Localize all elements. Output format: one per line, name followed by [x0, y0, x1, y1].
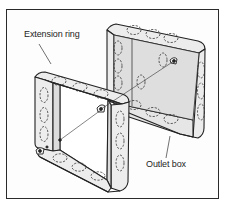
extension-ring-label: Extension ring: [24, 29, 80, 39]
outlet-box-label: Outlet box: [146, 159, 186, 169]
